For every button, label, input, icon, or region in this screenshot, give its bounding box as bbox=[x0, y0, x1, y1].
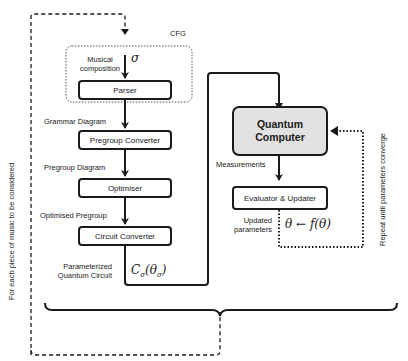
circuit-formula-arg: (θ bbox=[145, 263, 157, 277]
updated-line2: parameters bbox=[228, 225, 272, 234]
sigma-symbol: σ bbox=[131, 51, 139, 65]
updated-parameters-label: Updated parameters bbox=[228, 216, 272, 234]
musical-composition-line1: Musical bbox=[80, 55, 120, 64]
quantum-computer-line2: Computer bbox=[255, 131, 305, 144]
optimised-pregroup-label: Optimised Pregroup bbox=[40, 211, 107, 220]
measurements-label: Measurements bbox=[216, 160, 266, 169]
param-circuit-line1: Parameterized bbox=[50, 262, 112, 271]
musical-composition-line2: composition bbox=[80, 64, 120, 73]
circuit-formula-c: C bbox=[131, 263, 140, 277]
left-side-label: For each piece of music to be considered bbox=[7, 163, 16, 300]
quantum-computer-box: Quantum Computer bbox=[232, 106, 328, 156]
parser-box: Parser bbox=[78, 80, 172, 100]
cfg-label: CFG bbox=[170, 29, 186, 38]
right-side-label: Repeat until parameters converge bbox=[378, 133, 387, 246]
quantum-computer-line1: Quantum bbox=[255, 118, 305, 131]
grammar-diagram-label: Grammar Diagram bbox=[44, 117, 106, 126]
parameterized-circuit-label: Parameterized Quantum Circuit bbox=[50, 262, 112, 280]
updated-line1: Updated bbox=[228, 216, 272, 225]
circuit-formula: Cσ(θσ) bbox=[131, 263, 166, 279]
connector-lines bbox=[0, 0, 408, 361]
musical-composition-label: Musical composition bbox=[80, 55, 120, 73]
pregroup-converter-box: Pregroup Converter bbox=[78, 130, 172, 150]
circuit-formula-close: ) bbox=[162, 263, 167, 277]
evaluator-updater-box: Evaluator & Updater bbox=[232, 186, 328, 210]
pregroup-diagram-label: Pregroup Diagram bbox=[44, 163, 105, 172]
optimiser-box: Optimiser bbox=[78, 178, 172, 198]
param-circuit-line2: Quantum Circuit bbox=[50, 271, 112, 280]
update-formula: θ ← f(θ) bbox=[285, 217, 331, 231]
circuit-converter-box: Circuit Converter bbox=[78, 226, 172, 246]
